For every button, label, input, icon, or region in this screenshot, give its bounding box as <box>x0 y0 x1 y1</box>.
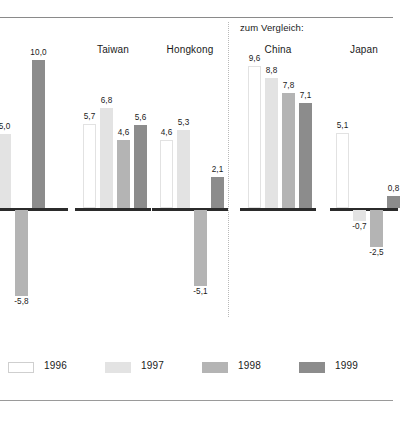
bars-hongkong: 4,6 5,3 -5,1 2,1 <box>152 44 228 334</box>
bar-rect <box>117 140 130 208</box>
bar-value-label: -5,1 <box>193 287 208 296</box>
bar-value-label: -5,8 <box>14 297 29 306</box>
bar-rect <box>265 78 278 208</box>
bar-rect <box>353 210 366 221</box>
bar-rect <box>282 93 295 208</box>
bar-value-label: 2,1 <box>212 165 224 174</box>
legend-swatch-1999 <box>299 362 325 373</box>
bar-rect <box>134 125 147 208</box>
bar-value-label: 4,6 <box>161 128 173 137</box>
bar-value-label: 9,6 <box>249 54 261 63</box>
bar-rect <box>248 66 261 208</box>
bar-value-label: 5,6 <box>135 113 147 122</box>
bottom-divider-rule <box>0 400 393 401</box>
bar-value-label: 8,8 <box>266 66 278 75</box>
bar-rect <box>15 210 28 296</box>
bar-value-label: -2,5 <box>369 248 384 257</box>
bar-rect <box>211 177 224 208</box>
bar-rect <box>160 140 173 208</box>
legend-label-1998: 1998 <box>238 360 261 371</box>
bar-rect <box>83 124 96 208</box>
bars-sudkorea: 5,0 -5,8 10,0 <box>0 44 68 334</box>
bar-rect <box>336 133 349 208</box>
bar-rect <box>100 108 113 208</box>
bar-rect <box>177 130 190 208</box>
bar-value-label: 7,1 <box>300 91 312 100</box>
bar-value-label: 5,0 <box>0 122 10 131</box>
bar-value-label: 5,1 <box>337 121 349 130</box>
bar-rect <box>194 210 207 286</box>
bar-value-label: 7,8 <box>283 81 295 90</box>
bar-value-label: 4,6 <box>118 128 130 137</box>
bar-value-label: 5,7 <box>84 112 96 121</box>
bar-group-hongkong: Hongkong 4,6 5,3 -5,1 2,1 <box>152 44 228 334</box>
legend-swatch-1997 <box>105 362 131 373</box>
bar-value-label: 5,3 <box>178 118 190 127</box>
bar-group-taiwan: Taiwan 5,7 6,8 4,6 5,6 <box>75 44 151 334</box>
bar-rect <box>0 134 11 208</box>
bars-japan: 5,1 -0,7 -2,5 0,8 <box>330 44 398 334</box>
bar-value-label: -0,7 <box>352 222 367 231</box>
legend-label-1999: 1999 <box>335 360 358 371</box>
legend-label-1997: 1997 <box>141 360 164 371</box>
legend-swatch-1998 <box>202 362 228 373</box>
bar-rect <box>32 60 45 208</box>
bar-rect <box>387 196 400 208</box>
bar-rect <box>370 210 383 247</box>
bar-value-label: 10,0 <box>30 48 46 57</box>
bars-taiwan: 5,7 6,8 4,6 5,6 <box>75 44 151 334</box>
bar-rect <box>299 103 312 208</box>
top-divider-rule <box>0 17 393 18</box>
legend-swatch-1996 <box>8 362 34 373</box>
legend-label-1996: 1996 <box>44 360 67 371</box>
plot-area: Südkorea 5,0 -5,8 10,0 Taiwan <box>0 44 400 334</box>
bar-value-label: 6,8 <box>101 96 113 105</box>
bars-china: 9,6 8,8 7,8 7,1 <box>240 44 316 334</box>
bar-group-japan: Japan 5,1 -0,7 -2,5 0,8 <box>330 44 398 334</box>
bar-group-sudkorea: Südkorea 5,0 -5,8 10,0 <box>0 44 68 334</box>
chart-canvas: zum Vergleich: Südkorea 5,0 -5,8 10,0 <box>0 0 400 423</box>
bar-value-label: 0,8 <box>388 184 400 193</box>
chart-legend: 1996 1997 1998 1999 <box>8 360 398 378</box>
comparison-note: zum Vergleich: <box>240 22 304 33</box>
bar-group-china: China 9,6 8,8 7,8 7,1 <box>240 44 316 334</box>
